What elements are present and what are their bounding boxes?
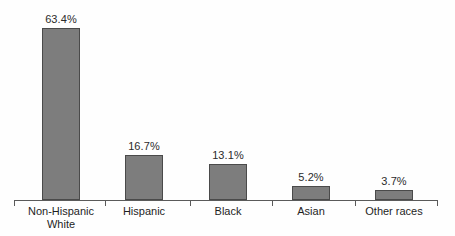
bar-black[interactable]	[209, 164, 247, 200]
bar-group-other-races: 3.7%	[375, 190, 413, 200]
bar-non-hispanic-white[interactable]	[42, 28, 80, 200]
bar-value-label: 16.7%	[128, 140, 160, 152]
bar-value-label: 63.4%	[45, 13, 77, 25]
category-label-line: Other races	[334, 205, 454, 218]
bar-value-label: 5.2%	[298, 171, 323, 183]
bar-value-label: 13.1%	[212, 149, 244, 161]
bar-other-races[interactable]	[375, 190, 413, 200]
bar-group-black: 13.1%	[209, 164, 247, 200]
bar-chart-plot-area: 63.4% 16.7% 13.1% 5.2% 3.7% Non-Hi	[0, 0, 455, 236]
bar-group-non-hispanic-white: 63.4%	[42, 28, 80, 200]
x-axis-category-label-other-races: Other races	[334, 205, 454, 218]
bar-asian[interactable]	[292, 186, 330, 200]
category-label-line: White	[1, 218, 121, 231]
bar-group-hispanic: 16.7%	[125, 155, 163, 200]
bar-group-asian: 5.2%	[292, 186, 330, 200]
bar-value-label: 3.7%	[381, 175, 406, 187]
x-axis-line	[14, 200, 437, 201]
bar-hispanic[interactable]	[125, 155, 163, 200]
chart-figure: 63.4% 16.7% 13.1% 5.2% 3.7% Non-Hi	[0, 0, 455, 236]
